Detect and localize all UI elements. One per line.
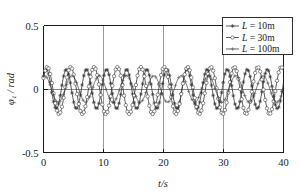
marker-1 (213, 76, 216, 79)
marker-1 (252, 80, 255, 83)
marker-1 (238, 87, 241, 90)
marker-1 (107, 104, 110, 107)
marker-0 (198, 100, 202, 104)
marker-1 (82, 111, 85, 114)
x-tick-label-20: 20 (158, 157, 169, 168)
x-tick-label-40: 40 (278, 157, 289, 168)
x-axis-title: t/s (158, 178, 168, 189)
marker-1 (274, 89, 277, 92)
marker-0 (213, 102, 217, 106)
chart-legend: L = 10mL = 30mL = 100m (223, 18, 293, 55)
marker-0 (92, 100, 96, 104)
marker-1 (143, 75, 146, 78)
marker-1 (260, 78, 263, 81)
marker-1 (200, 109, 203, 112)
marker-1 (148, 104, 151, 107)
marker-1 (280, 66, 283, 69)
marker-1 (186, 65, 189, 68)
marker-1 (153, 110, 156, 113)
marker-1 (101, 103, 104, 106)
marker-1 (264, 98, 267, 101)
marker-1 (178, 102, 181, 105)
marker-1 (129, 110, 132, 113)
marker-0 (268, 75, 272, 79)
marker-0 (161, 82, 165, 86)
marker-0 (226, 69, 230, 73)
marker-0 (70, 91, 74, 95)
marker-1 (60, 105, 63, 108)
marker-0 (151, 92, 155, 96)
marker-1 (164, 68, 167, 71)
marker-1 (230, 72, 233, 75)
legend-marker-0 (231, 24, 235, 28)
marker-1 (195, 105, 198, 108)
marker-0 (263, 72, 267, 76)
marker-0 (277, 105, 281, 109)
marker-1 (67, 69, 70, 72)
marker-0 (248, 75, 252, 79)
marker-0 (82, 74, 86, 78)
marker-1 (112, 75, 115, 78)
marker-0 (210, 83, 214, 87)
marker-0 (119, 92, 123, 96)
marker-0 (247, 69, 251, 73)
marker-1 (96, 73, 99, 76)
marker-0 (257, 105, 261, 109)
marker-1 (201, 101, 204, 104)
marker-1 (183, 73, 186, 76)
marker-1 (97, 83, 100, 86)
marker-1 (181, 82, 184, 85)
marker-0 (236, 106, 240, 110)
marker-1 (225, 101, 228, 104)
legend-label-2: L = 100m (241, 43, 280, 54)
marker-0 (97, 102, 101, 106)
x-tick-label-10: 10 (98, 157, 109, 168)
marker-1 (168, 85, 171, 88)
marker-1 (176, 109, 179, 112)
marker-1 (253, 71, 256, 74)
marker-1 (75, 92, 78, 95)
marker-1 (146, 95, 149, 98)
y-tick-label-1: 0 (33, 84, 38, 95)
marker-1 (275, 79, 278, 82)
marker-1 (136, 74, 139, 77)
marker-0 (273, 103, 277, 107)
marker-1 (65, 76, 68, 79)
marker-1 (49, 72, 52, 75)
marker-1 (223, 108, 226, 111)
marker-0 (116, 106, 120, 110)
marker-1 (262, 88, 265, 91)
marker-0 (267, 69, 271, 73)
marker-0 (156, 106, 160, 110)
marker-0 (105, 68, 109, 72)
marker-1 (119, 74, 122, 77)
marker-1 (50, 81, 53, 84)
marker-0 (203, 72, 207, 76)
marker-1 (190, 76, 193, 79)
marker-0 (126, 68, 130, 72)
marker-1 (87, 85, 90, 88)
marker-1 (144, 84, 147, 87)
marker-1 (84, 104, 87, 107)
marker-1 (250, 90, 253, 93)
marker-0 (107, 73, 111, 77)
marker-1 (47, 67, 50, 70)
marker-1 (206, 72, 209, 75)
marker-1 (166, 75, 169, 78)
marker-1 (171, 105, 174, 108)
marker-1 (154, 103, 157, 106)
marker-1 (205, 81, 208, 84)
y-tick-label-0: 0.5 (25, 21, 38, 32)
y-axis-title: φ₁ / rad (5, 72, 16, 105)
marker-1 (131, 103, 134, 106)
y-tick-label-2: -0.5 (22, 148, 39, 159)
legend-label-0: L = 10m (241, 20, 275, 31)
marker-1 (70, 67, 73, 70)
marker-0 (68, 81, 72, 85)
marker-1 (122, 94, 125, 97)
marker-1 (55, 109, 58, 112)
marker-0 (146, 68, 150, 72)
marker-1 (235, 69, 238, 72)
marker-0 (117, 101, 121, 105)
marker-1 (265, 107, 268, 110)
